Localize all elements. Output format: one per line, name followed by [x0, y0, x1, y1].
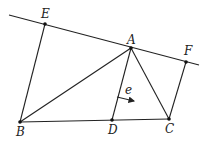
- label-d: D: [107, 123, 118, 137]
- point-e: [43, 22, 47, 26]
- segment-ac: [131, 48, 169, 119]
- label-a: A: [126, 33, 136, 47]
- label-f: F: [183, 44, 193, 58]
- label-b: B: [15, 125, 25, 139]
- label-vector-e: e: [125, 83, 132, 97]
- point-c: [167, 117, 171, 121]
- geometry-diagram: E A F B D C e: [0, 0, 211, 152]
- point-b: [18, 120, 22, 124]
- label-e: E: [40, 7, 50, 21]
- label-c: C: [165, 122, 174, 136]
- segment-bc: [20, 119, 169, 122]
- point-f: [184, 60, 188, 64]
- vector-e-arrow: [117, 97, 134, 101]
- line-ef: [9, 15, 199, 65]
- point-d: [110, 118, 114, 122]
- segment-fc: [169, 62, 186, 119]
